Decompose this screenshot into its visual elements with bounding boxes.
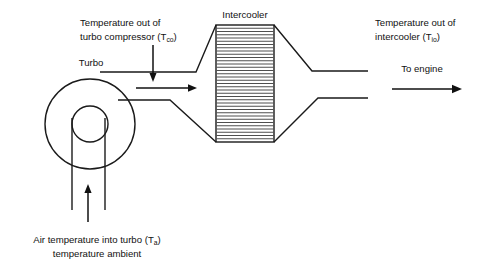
intercooler-temp-paren: ) — [437, 31, 440, 42]
turbo-label: Turbo — [79, 57, 104, 68]
ambient-temp-label-line1: Air temperature into turbo (Ta) — [33, 234, 161, 246]
intercooler-core — [216, 25, 274, 142]
turbo-inner-circle — [72, 106, 108, 142]
compressor-temp-label-line1: Temperature out of — [80, 17, 161, 28]
intercooler-label: Intercooler — [222, 9, 268, 20]
compressor-outlet-duct — [100, 25, 216, 142]
intake-air-up-arrow — [84, 184, 91, 222]
intercooler-outlet-duct — [274, 25, 368, 142]
compressor-temp-label-line2: turbo compressor (Tco) — [80, 31, 177, 43]
intercooler-temp-text: intercooler (T — [375, 31, 432, 42]
ambient-temp-text: Air temperature into turbo (T — [33, 234, 154, 245]
intercooler-temp-label-line2: intercooler (Tio) — [375, 31, 440, 43]
intercooler-fin-group — [217, 28, 274, 139]
duct-lower-wall — [118, 100, 216, 142]
airflow-right-arrow — [136, 84, 197, 92]
intercooler-temp-label-line1: Temperature out of — [375, 17, 456, 28]
turbo-intercooler-diagram: Temperature out of turbo compressor (Tco… — [0, 0, 483, 265]
compressor-temp-text: turbo compressor (T — [80, 31, 167, 42]
ambient-temp-label-line2: temperature ambient — [53, 248, 142, 259]
compressor-temp-pointer-arrow — [150, 45, 157, 82]
label-group: Temperature out of turbo compressor (Tco… — [33, 9, 456, 259]
diagram-canvas: Temperature out of turbo compressor (Tco… — [0, 0, 483, 265]
to-engine-arrow — [392, 85, 462, 93]
compressor-temp-paren: ) — [174, 31, 177, 42]
ambient-temp-paren: ) — [158, 234, 161, 245]
outlet-lower-wall — [274, 98, 368, 142]
to-engine-label: To engine — [401, 63, 443, 74]
turbo-outer-circle — [45, 79, 135, 169]
outlet-upper-wall — [274, 25, 368, 71]
